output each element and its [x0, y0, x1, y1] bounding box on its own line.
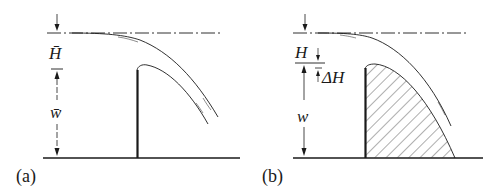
weir-height-arrow-up-icon	[302, 65, 307, 100]
weir-height-label: w̄	[50, 103, 62, 122]
panel-label-b: (b)	[262, 166, 283, 187]
panel-label-a: (a)	[16, 166, 36, 187]
weir-height-label: w	[297, 107, 309, 126]
lower-nappe	[137, 65, 208, 124]
weir-height-arrow-up-icon	[55, 71, 60, 100]
upper-nappe-shade	[118, 37, 138, 42]
delta-head-label: ΔH	[321, 68, 346, 87]
solid-weir-hatched	[365, 64, 455, 158]
head-label: H	[294, 43, 309, 62]
panel-a: H̄ w̄ (a)	[16, 14, 240, 187]
delta-arrow-down-icon	[316, 48, 320, 61]
weir-height-arrow-down-icon	[302, 127, 307, 156]
head-label: H̄	[48, 44, 63, 63]
weir-diagram: H̄ w̄ (a)	[0, 0, 503, 189]
head-arrow-top-icon	[303, 14, 308, 31]
panel-b: H ΔH w	[262, 14, 483, 187]
head-arrow-top-icon	[55, 14, 60, 31]
weir-height-arrow-down-icon	[55, 124, 60, 156]
delta-arrow-up-icon	[316, 70, 320, 82]
